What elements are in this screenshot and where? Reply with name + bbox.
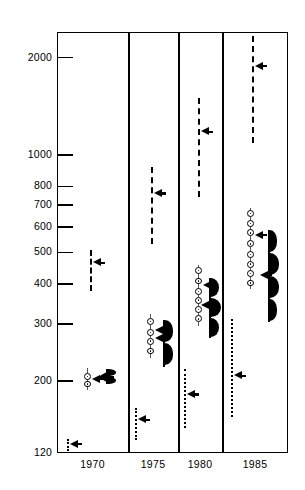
series-1985-high-dashed	[0, 0, 305, 490]
chart-root: 20001000800700600500400300200120 1970197…	[0, 0, 305, 490]
x-tick-label-1985: 1985	[225, 459, 285, 470]
median-pointer	[255, 62, 263, 70]
x-tick-label-1980: 1980	[170, 459, 230, 470]
range-bar	[252, 36, 254, 143]
median-pointer-tail	[263, 65, 267, 67]
x-tick-label-1970: 1970	[63, 459, 123, 470]
